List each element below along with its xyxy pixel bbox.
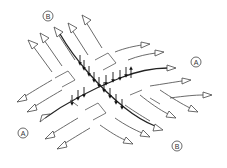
family-b-upper-arrows (28, 15, 102, 72)
grid-cells (55, 53, 160, 120)
family-a-left-arrows (17, 80, 90, 149)
family-a-right-arrows (115, 42, 212, 98)
label-b-top-text: B (46, 13, 51, 20)
label-a-right: A (191, 57, 201, 67)
label-a-left: A (18, 128, 28, 138)
a-main-curve (45, 68, 168, 118)
label-b-bottom: B (172, 141, 182, 151)
family-b-lower-arrows (100, 90, 198, 144)
label-b-bottom-text: B (175, 143, 180, 150)
label-a-left-text: A (21, 130, 26, 137)
label-a-right-text: A (194, 59, 199, 66)
label-b-top: B (43, 11, 53, 21)
flow-crossing-diagram: B A A B (0, 0, 227, 168)
